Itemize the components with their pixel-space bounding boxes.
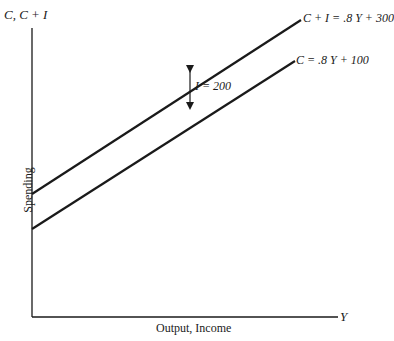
investment-gap-label: I = 200 — [195, 80, 231, 92]
y-axis-title: C, C + I — [4, 8, 47, 21]
x-axis-end-label: Y — [340, 310, 347, 323]
consumption-line-label: C = .8 Y + 100 — [296, 54, 369, 66]
c-plus-i-line — [32, 20, 301, 194]
c-plus-i-line-label: C + I = .8 Y + 300 — [303, 12, 394, 24]
x-axis-title: Output, Income — [156, 322, 231, 334]
consumption-line — [32, 61, 295, 229]
y-axis-label: Spending — [22, 160, 34, 220]
